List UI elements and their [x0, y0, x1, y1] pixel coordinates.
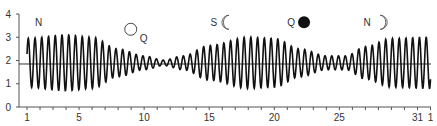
- x-tick-label: 5: [76, 112, 82, 123]
- x-tick-label: 31: [412, 112, 424, 123]
- annotation-label: S: [211, 17, 218, 28]
- full-moon-icon: [125, 23, 137, 35]
- y-tick-label: 2: [5, 55, 11, 66]
- x-tick-label: 1: [24, 112, 30, 123]
- x-tick-label: 1: [428, 112, 434, 123]
- y-tick-label: 0: [5, 102, 11, 113]
- y-tick-label: 4: [5, 9, 11, 20]
- tide-chart: 012341510152025311 NQSQN: [0, 0, 437, 126]
- y-tick-label: 3: [5, 32, 11, 43]
- annotation-label: Q: [287, 17, 295, 28]
- crescent-moon-icon: [380, 15, 387, 29]
- x-tick-label: 20: [269, 112, 281, 123]
- tide-curve: [27, 35, 431, 90]
- x-tick-label: 25: [334, 112, 346, 123]
- x-tick-label: 15: [204, 112, 216, 123]
- x-tick-label: 10: [139, 112, 151, 123]
- annotation-label: N: [364, 17, 371, 28]
- crescent-moon-icon: [222, 15, 229, 29]
- y-tick-label: 1: [5, 78, 11, 89]
- new-moon-icon: [298, 16, 310, 28]
- annotation-label: Q: [140, 33, 148, 44]
- annotation-label: N: [35, 17, 42, 28]
